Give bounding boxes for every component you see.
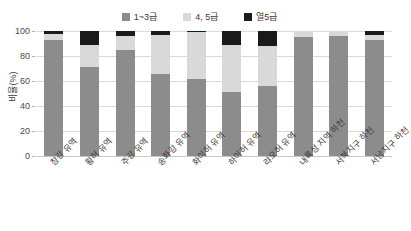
y-axis-tick-mark xyxy=(32,156,35,157)
y-axis-tick-mark xyxy=(32,81,35,82)
bar-segment[interactable] xyxy=(187,32,206,78)
y-axis-tick-mark xyxy=(32,131,35,132)
y-axis-tick-label: 60 xyxy=(4,77,30,86)
bar-segment[interactable] xyxy=(44,40,63,156)
legend-item-grade-4-5: 4, 5급 xyxy=(183,12,218,22)
y-axis-tick-mark xyxy=(32,31,35,32)
y-axis-tick-label: 40 xyxy=(4,102,30,111)
legend-label-grade-4-5: 4, 5급 xyxy=(195,12,218,22)
y-axis-tick-mark xyxy=(32,56,35,57)
bar-stack[interactable] xyxy=(44,31,63,156)
bar-segment[interactable] xyxy=(294,31,313,37)
bar-segment[interactable] xyxy=(222,31,241,45)
legend-label-grade-below-5: 열5급 xyxy=(256,12,277,22)
legend-swatch-grade-4-5-icon xyxy=(183,13,191,21)
bar-segment[interactable] xyxy=(365,31,384,35)
bar-segment[interactable] xyxy=(116,50,135,156)
y-axis-tick-label: 20 xyxy=(4,127,30,136)
bar-segment[interactable] xyxy=(80,45,99,68)
legend-item-grade-below-5: 열5급 xyxy=(244,12,277,22)
bar-segment[interactable] xyxy=(44,31,63,34)
bar-segment[interactable] xyxy=(151,74,170,157)
bar-segment[interactable] xyxy=(365,35,384,40)
bar-segment[interactable] xyxy=(329,31,348,36)
y-axis-tick-label: 80 xyxy=(4,52,30,61)
legend-item-grade-1-3: 1~3급 xyxy=(122,12,157,22)
y-axis-tick-label: 100 xyxy=(4,27,30,36)
y-axis-tick-label: 0 xyxy=(4,152,30,161)
bar-segment[interactable] xyxy=(116,36,135,50)
y-axis-tick-mark xyxy=(32,106,35,107)
bar-stack[interactable] xyxy=(80,31,99,156)
bar-segment[interactable] xyxy=(222,45,241,93)
chart-legend: 1~3급 4, 5급 열5급 xyxy=(0,9,399,25)
bar-segment[interactable] xyxy=(258,31,277,46)
bar-segment[interactable] xyxy=(80,31,99,45)
bar-segment[interactable] xyxy=(44,34,63,40)
bar-segment[interactable] xyxy=(80,67,99,156)
bar-segment[interactable] xyxy=(258,46,277,86)
bar-segment[interactable] xyxy=(187,31,206,32)
bar-segment[interactable] xyxy=(151,31,170,35)
bar-segment[interactable] xyxy=(116,31,135,36)
bar-stack[interactable] xyxy=(116,31,135,156)
legend-swatch-grade-1-3-icon xyxy=(122,13,130,21)
bar-segment[interactable] xyxy=(151,35,170,74)
bar-stack[interactable] xyxy=(151,31,170,156)
bar-segment[interactable] xyxy=(187,79,206,157)
legend-swatch-grade-below-5-icon xyxy=(244,13,252,21)
legend-label-grade-1-3: 1~3급 xyxy=(134,12,157,22)
